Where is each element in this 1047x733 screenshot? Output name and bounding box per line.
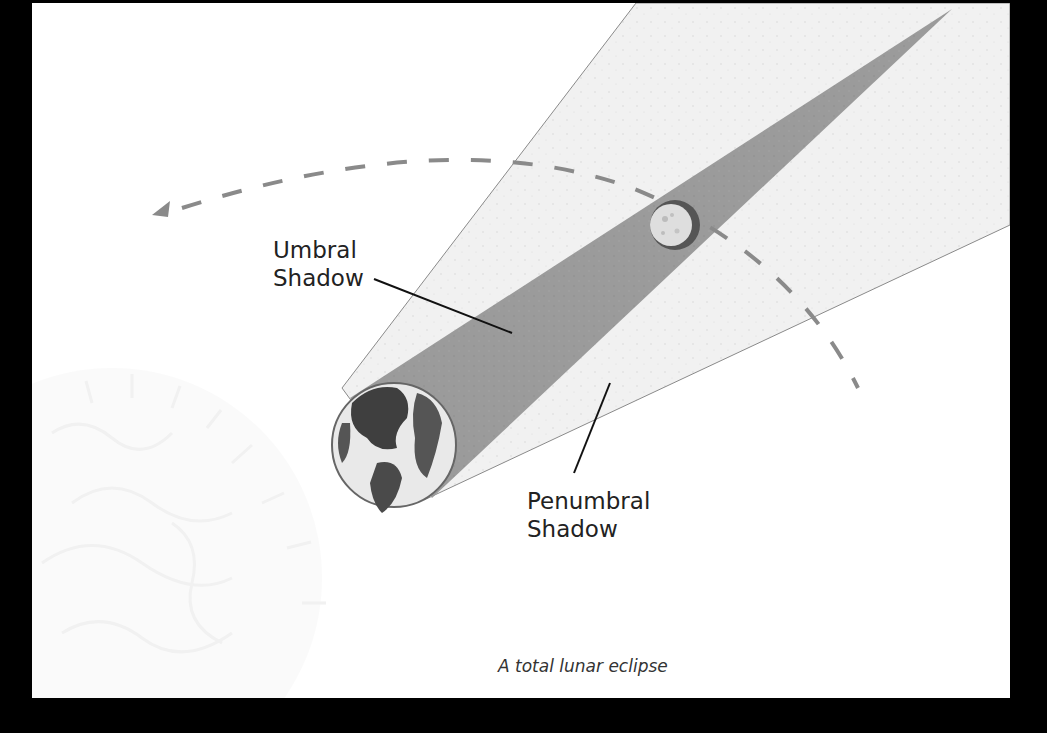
figure-caption: A total lunar eclipse	[498, 656, 668, 676]
umbral-shadow-label: Umbral Shadow	[273, 236, 364, 292]
penumbral-shadow-label: Penumbral Shadow	[527, 487, 650, 543]
moon-icon	[650, 200, 700, 250]
figure-panel: Umbral Shadow Penumbral Shadow A total l…	[32, 3, 1010, 698]
sun-icon	[32, 368, 326, 698]
eclipse-diagram	[32, 3, 1010, 698]
